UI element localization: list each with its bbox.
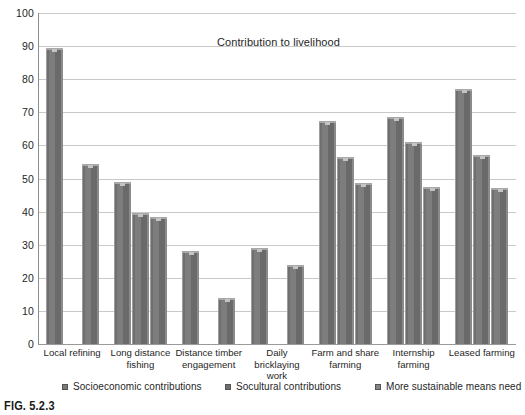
bar — [114, 182, 131, 344]
bar — [355, 183, 372, 344]
legend-swatch-icon — [375, 384, 381, 390]
x-axis-label: Leased farming — [448, 347, 516, 359]
x-axis-label: Long distance fishing — [106, 347, 174, 370]
bar — [423, 187, 440, 344]
x-axis-label: Internship farming — [379, 347, 447, 370]
legend-swatch-icon — [225, 384, 231, 390]
bar — [132, 213, 149, 344]
x-axis-label: Farm and share farming — [311, 347, 379, 370]
bar — [182, 251, 199, 344]
legend-label: Socultural contributions — [236, 381, 341, 392]
figure-caption: FIG. 5.2.3 — [4, 399, 55, 413]
legend-item[interactable]: Socioeconomic contributions — [62, 381, 202, 392]
legend-item[interactable]: Socultural contributions — [225, 381, 341, 392]
x-axis-label: Daily bricklaying work — [243, 347, 311, 382]
bar — [46, 48, 63, 344]
bar — [337, 157, 354, 344]
chart-legend: Socioeconomic contributionsSocultural co… — [0, 381, 525, 397]
figure-container: 0102030405060708090100 Contribution to l… — [0, 0, 525, 415]
legend-item[interactable]: More sustainable means need — [375, 381, 521, 392]
legend-label: Socioeconomic contributions — [73, 381, 202, 392]
bar — [387, 117, 404, 344]
bar — [405, 142, 422, 344]
bar — [319, 121, 336, 344]
bar — [251, 248, 268, 344]
legend-swatch-icon — [62, 384, 68, 390]
bar — [455, 89, 472, 344]
x-axis-category-labels: Local refiningLong distance fishingDista… — [0, 347, 525, 379]
legend-label: More sustainable means need — [386, 381, 521, 392]
x-axis-label: Distance timber engagement — [175, 347, 243, 370]
bar — [287, 265, 304, 344]
bar — [218, 298, 235, 344]
bars-layer — [0, 0, 525, 360]
bar — [473, 155, 490, 344]
bar — [491, 188, 508, 344]
bar — [150, 217, 167, 344]
plot-area: 0102030405060708090100 Contribution to l… — [0, 0, 525, 360]
x-axis-label: Local refining — [38, 347, 106, 359]
bar — [82, 164, 99, 344]
